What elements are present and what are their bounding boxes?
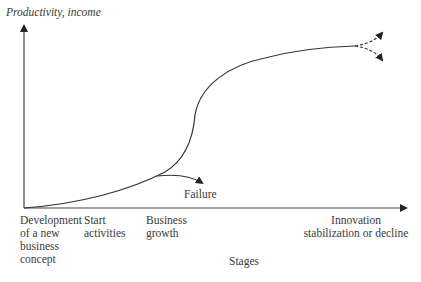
stage-label-innovation: Innovation stabilization or decline [286, 214, 421, 240]
growth-dashed-arrow [355, 33, 382, 46]
failure-label: Failure [184, 188, 217, 201]
x-axis-label: Stages [229, 255, 259, 268]
stage-label-start: Start activities [84, 214, 126, 240]
decline-dashed-arrow [355, 46, 382, 60]
stage-label-concept: Development of a new business concept [20, 214, 82, 266]
failure-branch-arrow [157, 175, 202, 183]
stage-label-growth: Business growth [146, 214, 187, 240]
y-axis-label: Productivity, income [6, 6, 101, 19]
life-cycle-curve [24, 46, 355, 208]
